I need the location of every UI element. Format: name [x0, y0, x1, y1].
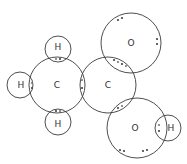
atom-label-c1: C [54, 80, 60, 90]
bond-o2-h4-electrons [158, 124, 160, 132]
bond-c1-h3-electrons [55, 110, 61, 112]
bond-c1-c2-electrons [81, 79, 83, 89]
atom-label-h2: H [18, 80, 25, 90]
atom-label-h3: H [55, 119, 62, 129]
dot-and-cross-diagram: C C H H H O O H [0, 0, 187, 164]
o2-lone-pairs [119, 149, 148, 152]
atom-label-h1: H [55, 42, 62, 52]
atom-label-h4: H [168, 123, 175, 133]
bond-c1-h1-electrons [55, 58, 61, 60]
bond-c2-o2-electrons [117, 105, 123, 109]
atom-label-o2: O [131, 123, 138, 133]
atom-label-c2: C [105, 80, 111, 90]
atom-label-o1: O [127, 38, 134, 48]
